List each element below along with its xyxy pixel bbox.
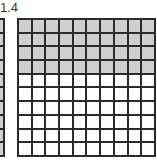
empty-cell: [18, 101, 32, 115]
shaded-cell: [59, 46, 73, 60]
empty-cell: [18, 87, 32, 101]
empty-cell: [128, 115, 142, 129]
shaded-cell: [0, 19, 4, 33]
shaded-cell: [73, 60, 87, 74]
empty-cell: [128, 142, 142, 156]
shaded-cell: [0, 74, 4, 88]
empty-cell: [59, 101, 73, 115]
shaded-cell: [114, 33, 128, 47]
empty-cell: [73, 129, 87, 143]
shaded-cell: [128, 60, 142, 74]
empty-cell: [86, 129, 100, 143]
empty-cell: [86, 87, 100, 101]
empty-cell: [73, 101, 87, 115]
empty-cell: [73, 74, 87, 88]
shaded-cell: [100, 46, 114, 60]
empty-cell: [59, 129, 73, 143]
shaded-cell: [32, 46, 46, 60]
shaded-cell: [18, 60, 32, 74]
empty-cell: [45, 87, 59, 101]
empty-cell: [45, 129, 59, 143]
shaded-cell: [18, 46, 32, 60]
empty-cell: [141, 101, 155, 115]
shaded-cell: [141, 33, 155, 47]
empty-cell: [114, 87, 128, 101]
shaded-cell: [18, 33, 32, 47]
shaded-cell: [86, 60, 100, 74]
value-label: 1.4: [0, 1, 18, 15]
shaded-cell: [141, 46, 155, 60]
empty-cell: [114, 101, 128, 115]
shaded-cell: [32, 60, 46, 74]
shaded-cell: [45, 46, 59, 60]
empty-cell: [114, 74, 128, 88]
shaded-cell: [18, 19, 32, 33]
shaded-cell: [141, 19, 155, 33]
empty-cell: [114, 129, 128, 143]
shaded-cell: [86, 19, 100, 33]
empty-cell: [45, 101, 59, 115]
shaded-cell: [45, 33, 59, 47]
shaded-cell: [128, 19, 142, 33]
empty-cell: [32, 74, 46, 88]
shaded-cell: [0, 142, 4, 156]
empty-cell: [73, 142, 87, 156]
empty-cell: [100, 129, 114, 143]
shaded-cell: [86, 33, 100, 47]
empty-cell: [141, 74, 155, 88]
shaded-cell: [141, 60, 155, 74]
empty-cell: [100, 101, 114, 115]
empty-cell: [86, 74, 100, 88]
empty-cell: [45, 115, 59, 129]
empty-cell: [59, 115, 73, 129]
empty-cell: [141, 115, 155, 129]
shaded-cell: [86, 46, 100, 60]
empty-cell: [128, 129, 142, 143]
shaded-cell: [32, 33, 46, 47]
shaded-cell: [0, 101, 4, 115]
shaded-cell: [0, 115, 4, 129]
shaded-cell: [32, 19, 46, 33]
empty-cell: [32, 142, 46, 156]
shaded-cell: [114, 46, 128, 60]
empty-cell: [59, 74, 73, 88]
empty-cell: [86, 101, 100, 115]
empty-cell: [86, 115, 100, 129]
empty-cell: [18, 115, 32, 129]
shaded-cell: [0, 129, 4, 143]
empty-cell: [59, 87, 73, 101]
empty-cell: [128, 87, 142, 101]
shaded-cell: [59, 60, 73, 74]
shaded-cell: [128, 33, 142, 47]
shaded-cell: [100, 19, 114, 33]
empty-cell: [45, 74, 59, 88]
empty-cell: [32, 115, 46, 129]
empty-cell: [18, 74, 32, 88]
shaded-cell: [114, 19, 128, 33]
empty-cell: [114, 115, 128, 129]
empty-cell: [141, 87, 155, 101]
whole-shaded-grid: [0, 18, 5, 157]
shaded-cell: [100, 60, 114, 74]
empty-cell: [32, 101, 46, 115]
shaded-cell: [0, 33, 4, 47]
shaded-cell: [0, 46, 4, 60]
shaded-cell: [45, 60, 59, 74]
shaded-cell: [73, 19, 87, 33]
shaded-cell: [114, 60, 128, 74]
shaded-cell: [73, 33, 87, 47]
empty-cell: [100, 142, 114, 156]
shaded-cell: [0, 87, 4, 101]
empty-cell: [128, 74, 142, 88]
empty-cell: [128, 101, 142, 115]
empty-cell: [141, 129, 155, 143]
empty-cell: [59, 142, 73, 156]
empty-cell: [100, 87, 114, 101]
empty-cell: [73, 115, 87, 129]
shaded-cell: [0, 60, 4, 74]
empty-cell: [100, 74, 114, 88]
shaded-cell: [59, 19, 73, 33]
shaded-cell: [100, 33, 114, 47]
shaded-cell: [45, 19, 59, 33]
empty-cell: [18, 142, 32, 156]
